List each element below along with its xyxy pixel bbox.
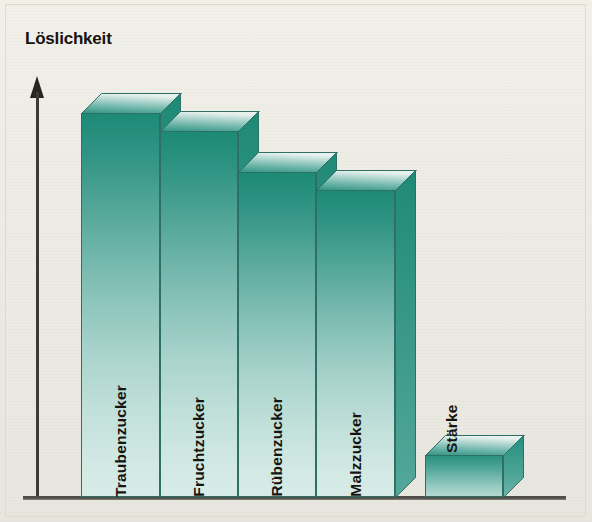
bar-top-face [238, 152, 316, 173]
bar-top-face [425, 435, 503, 456]
bar-front-face [316, 190, 395, 497]
y-axis-line [36, 92, 39, 498]
bar-front-face [81, 113, 160, 497]
bar-front-face [425, 455, 503, 497]
bar-top-face [160, 111, 238, 132]
bar-front-face [238, 172, 316, 497]
bar-ruebenzucker: Rübenzucker [238, 152, 316, 497]
bar-top-face [316, 170, 395, 191]
bar-label-staerke: Stärke [443, 363, 461, 453]
bar-staerke [425, 435, 503, 497]
page-title: Löslichkeit [25, 29, 112, 49]
bar-traubenzucker: Traubenzucker [81, 93, 160, 497]
chart-canvas: Löslichkeit [0, 0, 592, 522]
bar-side-face [395, 170, 417, 498]
bar-fruchtzucker: Fruchtzucker [160, 111, 238, 497]
bar-top-face [81, 93, 160, 114]
bar-front-face [160, 131, 238, 497]
bar-side-face [503, 435, 525, 498]
bar-malzzucker: Malzzucker [316, 170, 395, 497]
